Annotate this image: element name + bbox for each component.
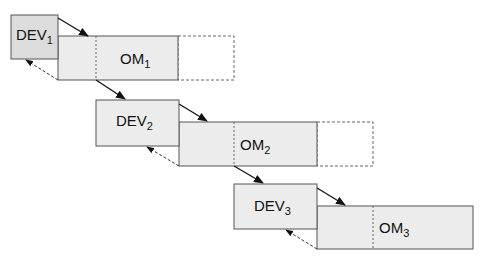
- om1-box: [58, 36, 178, 80]
- om2-label: OM2: [240, 136, 270, 156]
- om3-label: OM3: [379, 219, 409, 239]
- om1-label: OM1: [120, 50, 150, 70]
- arrow-om3-to-dev3-dashed: [286, 230, 317, 249]
- arrow-om2-to-dev3: [234, 166, 263, 183]
- arrow-dev3-to-om3: [317, 188, 345, 205]
- dev2-label: DEV2: [116, 112, 153, 132]
- arrow-dev1-to-om1: [58, 18, 88, 36]
- diagram-canvas: DEV1 OM1 DEV2 OM2 DEV3 OM3: [0, 0, 487, 266]
- arrow-om1-to-dev1-dashed: [26, 60, 58, 80]
- om2-dashed-extension: [317, 122, 373, 166]
- om1-dashed-extension: [178, 36, 234, 80]
- diagram-graphics: [0, 0, 487, 266]
- dev1-label: DEV1: [16, 26, 53, 46]
- arrow-om1-to-dev2: [96, 80, 125, 99]
- dev3-label: DEV3: [254, 197, 291, 217]
- arrow-dev2-to-om2: [179, 104, 207, 121]
- arrow-om2-to-dev2-dashed: [147, 147, 179, 166]
